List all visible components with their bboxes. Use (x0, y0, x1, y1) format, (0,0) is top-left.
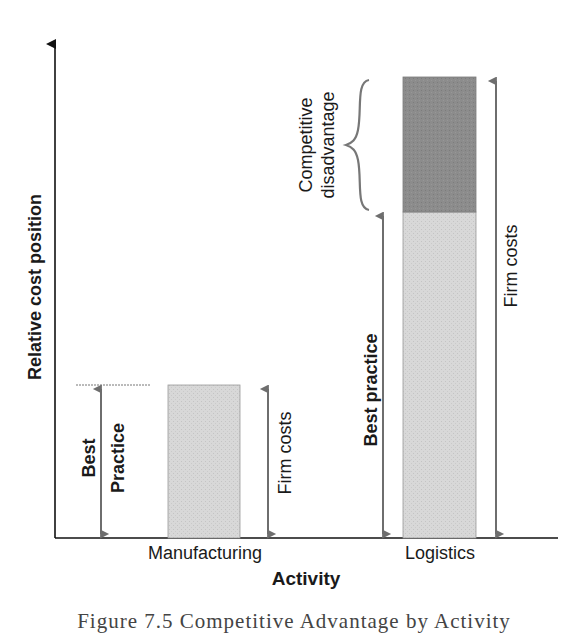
bar-logistics-competitive-disadvantage (403, 77, 476, 212)
mfg-best-label-1: Best (79, 438, 99, 477)
bar-manufacturing (168, 385, 240, 538)
brace-icon (346, 80, 369, 210)
y-axis-label: Relative cost position (25, 194, 45, 380)
mfg-firm-costs-label: Firm costs (275, 412, 295, 495)
log-firm-costs-label: Firm costs (501, 225, 521, 308)
mfg-best-label-2: Practice (108, 423, 128, 493)
competitive-label-2: disadvantage (318, 91, 338, 198)
bar-logistics-best-practice (403, 212, 476, 538)
category-label-manufacturing: Manufacturing (148, 543, 262, 563)
category-label-logistics: Logistics (405, 543, 475, 563)
x-axis-label: Activity (272, 568, 341, 589)
figure-caption: Figure 7.5 Competitive Advantage by Acti… (0, 609, 588, 634)
competitive-label-1: Competitive (296, 97, 316, 192)
log-best-practice-label: Best practice (361, 333, 381, 446)
